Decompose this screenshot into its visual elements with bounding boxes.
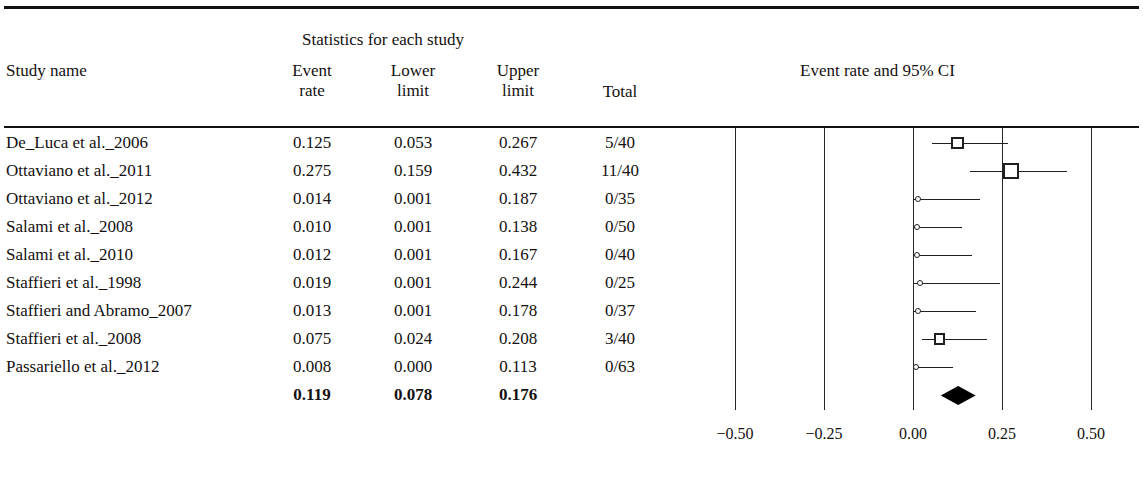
axis-gridline [1002,128,1003,410]
upper-limit-cell: 0.176 [463,381,573,409]
total-cell: 0/63 [565,353,675,381]
confidence-interval-line [970,171,1067,172]
upper-limit-cell: 0.138 [463,213,573,241]
event-rate-cell: 0.119 [257,381,367,409]
plot-title: Event rate and 95% CI [800,61,955,81]
event-rate-column-header: Event rate [257,61,367,101]
axis-tick-label: −0.50 [690,424,780,444]
axis-gridline [913,128,914,410]
lower-limit-cell: 0.159 [358,157,468,185]
study-name-column-header: Study name [6,61,87,81]
study-name-cell: Staffieri et al._1998 [6,269,141,297]
lower-limit-cell: 0.001 [358,213,468,241]
table-top-rule [4,6,1139,9]
lower-limit-cell: 0.001 [358,297,468,325]
effect-size-marker-square [951,137,964,150]
confidence-interval-line [932,143,1008,144]
event-rate-cell: 0.019 [257,269,367,297]
upper-limit-header-line1: Upper [497,61,539,80]
total-cell: 0/50 [565,213,675,241]
study-name-cell: Passariello et al._2012 [6,353,159,381]
lower-limit-cell: 0.000 [358,353,468,381]
confidence-interval-line [913,199,979,200]
confidence-interval-line [913,311,976,312]
table-header-rule [4,126,1139,128]
event-rate-cell: 0.012 [257,241,367,269]
upper-limit-header-line2: limit [463,81,573,101]
total-cell: 0/40 [565,241,675,269]
effect-size-marker-dot [914,224,920,230]
event-rate-cell: 0.008 [257,353,367,381]
effect-size-marker-square [1003,163,1019,179]
table-row: Ottaviano et al._20120.0140.0010.1870/35 [0,185,700,213]
table-row: Ottaviano et al._20110.2750.1590.43211/4… [0,157,700,185]
lower-limit-column-header: Lower limit [358,61,468,101]
study-name-cell: Staffieri et al._2008 [6,325,141,353]
axis-gridline [824,128,825,410]
axis-tick-label: 0.50 [1046,424,1136,444]
table-row: Staffieri and Abramo_20070.0130.0010.178… [0,297,700,325]
lower-limit-cell: 0.024 [358,325,468,353]
forest-plot-figure: Statistics for each study Study name Eve… [0,0,1143,478]
axis-tick-label: 0.25 [957,424,1047,444]
table-row: Staffieri et al._20080.0750.0240.2083/40 [0,325,700,353]
total-cell: 5/40 [565,129,675,157]
upper-limit-cell: 0.167 [463,241,573,269]
total-cell: 11/40 [565,157,675,185]
lower-limit-cell: 0.001 [358,269,468,297]
total-column-header: Total [565,82,675,102]
table-row: Passariello et al._20120.0080.0000.1130/… [0,353,700,381]
effect-size-marker-dot [915,196,921,202]
upper-limit-cell: 0.432 [463,157,573,185]
study-name-cell: Salami et al._2008 [6,213,133,241]
confidence-interval-line [913,255,972,256]
study-name-cell: Ottaviano et al._2011 [6,157,152,185]
lower-limit-cell: 0.001 [358,185,468,213]
effect-size-marker-square [934,333,945,344]
total-cell: 3/40 [565,325,675,353]
upper-limit-column-header: Upper limit [463,61,573,101]
upper-limit-cell: 0.113 [463,353,573,381]
axis-tick-label: 0.00 [868,424,958,444]
event-rate-cell: 0.075 [257,325,367,353]
event-rate-cell: 0.010 [257,213,367,241]
table-row: Staffieri et al._19980.0190.0010.2440/25 [0,269,700,297]
total-cell: 0/25 [565,269,675,297]
table-row: Salami et al._20080.0100.0010.1380/50 [0,213,700,241]
study-name-cell: Ottaviano et al._2012 [6,185,153,213]
lower-limit-cell: 0.078 [358,381,468,409]
table-row: De_Luca et al._20060.1250.0530.2675/40 [0,129,700,157]
effect-size-marker-dot [915,308,921,314]
effect-size-marker-dot [917,280,923,286]
confidence-interval-line [913,283,1000,284]
total-cell: 0/35 [565,185,675,213]
study-name-cell: Staffieri and Abramo_2007 [6,297,192,325]
event-rate-cell: 0.275 [257,157,367,185]
effect-size-marker-dot [914,252,920,258]
table-row-summary: 0.1190.0780.176 [0,381,700,409]
upper-limit-cell: 0.267 [463,129,573,157]
axis-gridline [735,128,736,410]
lower-limit-header-line2: limit [358,81,468,101]
study-name-cell: De_Luca et al._2006 [6,129,148,157]
event-rate-header-line2: rate [257,81,367,101]
table-row: Salami et al._20100.0120.0010.1670/40 [0,241,700,269]
effect-size-marker-dot [913,364,919,370]
lower-limit-cell: 0.001 [358,241,468,269]
event-rate-cell: 0.125 [257,129,367,157]
confidence-interval-line [913,367,953,368]
event-rate-cell: 0.013 [257,297,367,325]
event-rate-cell: 0.014 [257,185,367,213]
axis-tick-label: −0.25 [779,424,869,444]
upper-limit-cell: 0.187 [463,185,573,213]
lower-limit-header-line1: Lower [391,61,435,80]
event-rate-header-line1: Event [292,61,332,80]
lower-limit-cell: 0.053 [358,129,468,157]
total-cell: 0/37 [565,297,675,325]
statistics-group-title: Statistics for each study [302,30,464,50]
upper-limit-cell: 0.178 [463,297,573,325]
summary-effect-diamond [941,386,976,405]
upper-limit-cell: 0.244 [463,269,573,297]
confidence-interval-line [922,339,988,340]
confidence-interval-line [913,227,962,228]
